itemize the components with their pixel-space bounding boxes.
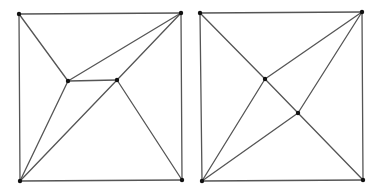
edge-C-BL bbox=[202, 79, 265, 181]
edge-D-BR bbox=[298, 113, 363, 180]
diagram-canvas bbox=[0, 0, 382, 190]
edge-B-BR bbox=[117, 80, 182, 180]
edge-BL-TL bbox=[200, 13, 202, 181]
edge-BR-BL bbox=[20, 180, 182, 181]
edge-D-BL bbox=[202, 113, 298, 181]
edge-TL-TR bbox=[19, 13, 181, 14]
edge-TL-TR bbox=[200, 12, 362, 13]
edge-TL-A bbox=[19, 14, 68, 81]
vertex-BR bbox=[180, 178, 184, 182]
vertex-BL bbox=[18, 179, 22, 183]
vertex-D bbox=[296, 111, 300, 115]
edge-A-BL bbox=[20, 81, 68, 181]
left-planar-graph bbox=[17, 11, 184, 183]
vertex-TR bbox=[360, 10, 364, 14]
edge-B-BL bbox=[20, 80, 117, 181]
edge-BR-BL bbox=[202, 180, 363, 181]
vertex-B bbox=[115, 78, 119, 82]
graph-diagrams bbox=[0, 0, 382, 190]
vertex-BL bbox=[200, 179, 204, 183]
edge-TR-BR bbox=[362, 12, 363, 180]
vertex-TL bbox=[198, 11, 202, 15]
vertex-TR bbox=[179, 11, 183, 15]
vertex-BR bbox=[361, 178, 365, 182]
edge-TR-BR bbox=[181, 13, 182, 180]
vertex-TL bbox=[17, 12, 21, 16]
edge-B-TR bbox=[117, 13, 181, 80]
vertex-A bbox=[66, 79, 70, 83]
edge-BL-TL bbox=[19, 14, 20, 181]
edge-C-D bbox=[265, 79, 298, 113]
right-planar-graph bbox=[198, 10, 365, 183]
vertex-C bbox=[263, 77, 267, 81]
edge-D-TR bbox=[298, 12, 362, 113]
edge-A-B bbox=[68, 80, 117, 81]
edge-A-TR bbox=[68, 13, 181, 81]
edge-TL-C bbox=[200, 13, 265, 79]
edge-C-TR bbox=[265, 12, 362, 79]
